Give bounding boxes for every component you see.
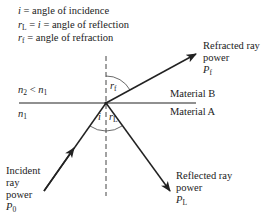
- refracted-ray-label: Refracted ray power Pf: [203, 40, 260, 76]
- legend: i = angle of incidence rL = i = angle of…: [18, 4, 129, 45]
- material-b-label: Material B: [170, 88, 215, 100]
- reflection-angle-label: rL: [109, 111, 118, 123]
- upper-medium-condition: n2 < n1: [18, 84, 47, 96]
- reflected-ray-label: Reflected ray power PL: [176, 170, 232, 206]
- legend-refraction: rf = angle of refraction: [18, 31, 129, 45]
- refraction-angle-label: rf: [110, 80, 117, 92]
- interface-point: [104, 101, 107, 104]
- incidence-angle-label: i: [98, 111, 101, 123]
- incident-ray-arrow: [44, 148, 74, 191]
- legend-incidence: i = angle of incidence: [18, 4, 129, 18]
- incident-ray-label: Incident ray power P0: [6, 165, 40, 213]
- legend-reflection: rL = i = angle of reflection: [18, 18, 129, 32]
- material-a-label: Material A: [170, 106, 215, 118]
- lower-medium-index: n1: [18, 108, 27, 120]
